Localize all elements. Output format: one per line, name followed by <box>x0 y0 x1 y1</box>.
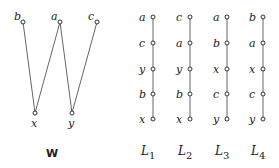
chain-node-label-c: c <box>139 37 145 50</box>
chain-node-label-c: c <box>176 11 182 24</box>
edge-c-y <box>72 22 97 113</box>
poset-w: bacxy <box>14 10 99 130</box>
chain-node-x <box>151 117 155 121</box>
chain-node-label-a: a <box>213 11 220 24</box>
chain-L2: caybxL2 <box>175 11 192 161</box>
chain-node-x <box>188 117 192 121</box>
chain-caption: L1 <box>140 144 155 161</box>
chain-node-label-y: y <box>138 63 146 76</box>
node-y <box>70 111 74 115</box>
chain-node-x <box>225 67 229 71</box>
edge-a-y <box>60 22 72 113</box>
chain-node-label-b: b <box>213 37 220 50</box>
edge-b-x <box>23 22 35 113</box>
chain-node-y <box>261 117 265 121</box>
chain-node-label-x: x <box>139 113 146 126</box>
chain-node-c <box>225 92 229 96</box>
chain-L3: abxcyL3 <box>212 11 229 161</box>
chain-node-a <box>261 41 265 45</box>
chain-node-y <box>151 67 155 71</box>
node-x <box>33 111 37 115</box>
chain-caption: L3 <box>214 144 229 161</box>
chain-node-b <box>261 15 265 19</box>
chain-node-label-b: b <box>249 11 256 24</box>
chain-node-c <box>261 92 265 96</box>
chain-node-label-c: c <box>213 88 219 101</box>
chain-node-b <box>151 92 155 96</box>
chain-node-c <box>188 15 192 19</box>
node-c <box>95 20 99 24</box>
chain-node-label-x: x <box>213 63 220 76</box>
chain-node-a <box>188 41 192 45</box>
chain-node-c <box>151 41 155 45</box>
diagram-figure: bacxy W acybxL1caybxL2abxcyL3baxcyL4 <box>0 0 279 168</box>
chain-node-label-x: x <box>249 63 256 76</box>
chain-node-x <box>261 67 265 71</box>
edge-a-x <box>35 22 60 113</box>
node-label-a: a <box>51 10 58 23</box>
node-b <box>21 20 25 24</box>
node-a <box>58 20 62 24</box>
chain-node-label-a: a <box>176 37 183 50</box>
chain-node-label-a: a <box>249 37 256 50</box>
chain-node-label-b: b <box>176 88 183 101</box>
linear-extensions: acybxL1caybxL2abxcyL3baxcyL4 <box>138 11 265 161</box>
chain-caption: L4 <box>250 144 265 161</box>
chain-caption: L2 <box>177 144 192 161</box>
chain-node-a <box>151 15 155 19</box>
poset-caption: W <box>46 147 58 160</box>
node-label-x: x <box>31 117 38 130</box>
node-label-c: c <box>88 10 94 23</box>
node-label-b: b <box>14 10 21 23</box>
chain-node-y <box>225 117 229 121</box>
chain-node-b <box>225 41 229 45</box>
chain-node-y <box>188 67 192 71</box>
node-label-y: y <box>67 117 75 130</box>
chain-L4: baxcyL4 <box>248 11 265 161</box>
chain-node-label-y: y <box>175 63 183 76</box>
chain-node-label-c: c <box>249 88 255 101</box>
chain-L1: acybxL1 <box>138 11 155 161</box>
chain-node-label-b: b <box>139 88 146 101</box>
chain-node-label-x: x <box>176 113 183 126</box>
chain-node-label-y: y <box>212 113 220 126</box>
chain-node-label-a: a <box>139 11 146 24</box>
chain-node-b <box>188 92 192 96</box>
chain-node-label-y: y <box>248 113 256 126</box>
chain-node-a <box>225 15 229 19</box>
